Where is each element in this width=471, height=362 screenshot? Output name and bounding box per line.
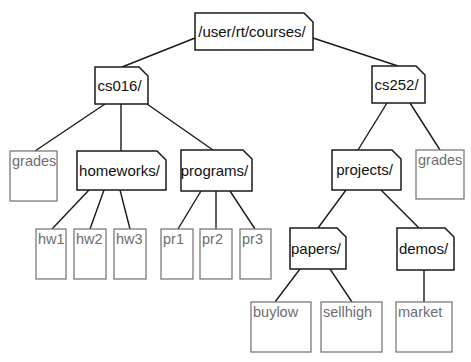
edge-cs252-grades2 [410,103,440,150]
edge-projects-papers [318,190,346,228]
file-label: pr1 [163,231,184,247]
directory-label: homeworks/ [79,162,161,179]
edge-cs016-grades1 [35,104,105,151]
directory-node-demos: demos/ [397,228,454,270]
file-label: pr2 [202,231,223,247]
file-node-pr2: pr2 [200,229,232,279]
file-label: hw3 [116,231,143,247]
directory-label: projects/ [336,161,394,178]
directory-node-programs: programs/ [181,150,252,191]
file-node-hw2: hw2 [74,229,106,279]
file-node-pr3: pr3 [240,229,271,279]
file-node-grades2: grades [416,150,464,199]
file-node-hw3: hw3 [114,229,146,279]
edge-papers-buylow [275,269,300,302]
file-label: sellhigh [323,304,372,320]
file-node-market: market [396,302,452,352]
edge-homeworks-hw2 [90,190,104,229]
file-node-sellhigh: sellhigh [321,302,382,352]
edge-root-cs016 [122,38,195,67]
tree-nodes: /user/rt/courses/cs016/cs252/gradeshomew… [10,13,464,352]
edge-papers-sellhigh [330,269,352,302]
directory-node-cs252: cs252/ [372,66,425,103]
edge-cs016-programs [147,104,213,150]
directory-label: programs/ [181,162,249,179]
file-label: buylow [253,304,299,320]
edge-programs-pr3 [230,191,255,229]
file-label: hw1 [38,231,65,247]
edge-root-cs252 [313,38,398,66]
edge-homeworks-hw3 [120,190,130,229]
file-node-grades1: grades [10,151,57,201]
file-label: pr3 [242,231,263,247]
directory-node-homeworks: homeworks/ [77,151,166,190]
directory-tree-diagram: /user/rt/courses/cs016/cs252/gradeshomew… [0,0,471,362]
file-node-hw1: hw1 [36,229,66,279]
file-node-buylow: buylow [251,302,311,352]
directory-node-cs016: cs016/ [95,67,148,104]
directory-label: cs252/ [374,76,419,93]
file-label: grades [418,152,462,168]
directory-node-papers: papers/ [290,228,346,269]
edge-programs-pr1 [178,191,201,229]
directory-node-root: /user/rt/courses/ [195,13,313,50]
file-label: hw2 [76,231,103,247]
edge-projects-demos [381,190,419,228]
directory-label: /user/rt/courses/ [198,23,306,40]
file-node-pr1: pr1 [161,229,193,279]
directory-node-projects: projects/ [332,150,401,190]
edge-cs252-projects [358,103,387,150]
directory-label: demos/ [399,240,449,257]
file-label: grades [12,153,56,169]
directory-label: papers/ [291,240,342,257]
file-label: market [398,304,442,320]
directory-label: cs016/ [97,77,142,94]
